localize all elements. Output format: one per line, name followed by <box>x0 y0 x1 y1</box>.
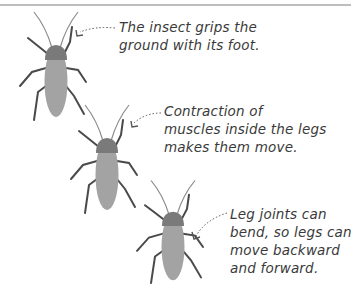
callout-arrow-2 <box>131 113 161 127</box>
caption-line: makes them move. <box>164 138 327 156</box>
insect-2 <box>71 105 137 213</box>
caption-muscles: Contraction of muscles inside the legs m… <box>164 102 327 156</box>
caption-grip: The insect grips the ground with its foo… <box>119 18 260 54</box>
callout-arrow-3 <box>192 213 227 239</box>
caption-line: Contraction of <box>164 102 327 120</box>
callout-arrow-1 <box>76 28 115 37</box>
caption-line: and forward. <box>230 259 352 277</box>
caption-line: muscles inside the legs <box>164 120 327 138</box>
caption-line: ground with its foot. <box>119 36 260 54</box>
caption-line: move backward <box>230 241 352 259</box>
insect-3 <box>137 181 203 284</box>
insect-1 <box>20 12 86 120</box>
caption-joints: Leg joints can bend, so legs can move ba… <box>230 205 352 277</box>
caption-line: The insect grips the <box>119 18 260 36</box>
caption-line: bend, so legs can <box>230 223 352 241</box>
caption-line: Leg joints can <box>230 205 352 223</box>
